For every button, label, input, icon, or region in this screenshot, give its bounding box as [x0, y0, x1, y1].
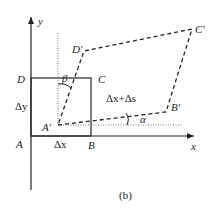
- vertex-label-D-prime: D': [71, 43, 83, 55]
- y-axis-label: y: [37, 15, 43, 27]
- vertex-label-B: B: [88, 139, 95, 151]
- vertex-label-A-prime: A': [41, 121, 52, 133]
- alpha-angle-label: α: [140, 113, 146, 125]
- original-square: [31, 78, 91, 136]
- vertex-label-D: D: [16, 73, 25, 85]
- x-axis-label: x: [190, 140, 196, 152]
- figure-caption: (b): [119, 189, 132, 202]
- vertex-label-C-prime: C': [195, 23, 205, 35]
- vertex-label-A: A: [15, 138, 23, 150]
- vertex-label-B-prime: B': [171, 101, 181, 113]
- beta-angle-arc: [58, 84, 71, 88]
- delta-y-label: Δy: [15, 100, 28, 112]
- strain-deformation-diagram: y x A B C D Δx Δy A' B' C' D' Δx+Δs β α …: [0, 0, 214, 215]
- alpha-angle-arc: [126, 113, 128, 125]
- vertex-label-C: C: [98, 73, 106, 85]
- beta-angle-label: β: [61, 72, 68, 84]
- stretched-side-label: Δx+Δs: [106, 92, 136, 104]
- delta-x-label: Δx: [54, 138, 67, 150]
